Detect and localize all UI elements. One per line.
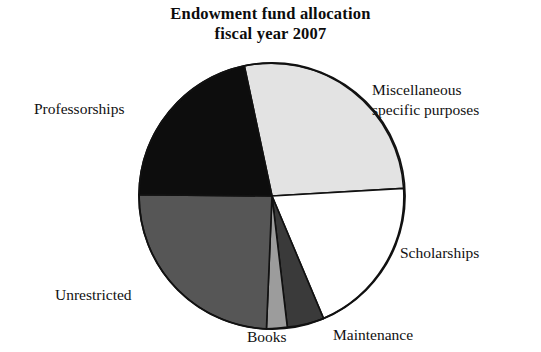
pie-label-miscellaneous-line-1: Miscellaneous [372, 80, 537, 100]
pie-label-miscellaneous-line-2: specific purposes [372, 100, 537, 120]
title-line-2: fiscal year 2007 [0, 24, 541, 44]
pie-label-professorships: Professorships [34, 99, 124, 118]
page-title: Endowment fund allocation fiscal year 20… [0, 4, 541, 44]
chart-page: Endowment fund allocation fiscal year 20… [0, 0, 541, 352]
title-line-1: Endowment fund allocation [170, 4, 370, 23]
pie-label-books: Books [247, 327, 287, 346]
pie-label-scholarships: Scholarships [400, 243, 479, 262]
pie-chart-svg [138, 62, 406, 330]
pie-label-maintenance: Maintenance [333, 325, 413, 344]
pie-slice-unrestricted[interactable] [139, 195, 272, 329]
pie-label-miscellaneous: Miscellaneous specific purposes [372, 80, 537, 120]
pie-chart [138, 62, 406, 330]
pie-label-unrestricted: Unrestricted [55, 285, 132, 304]
